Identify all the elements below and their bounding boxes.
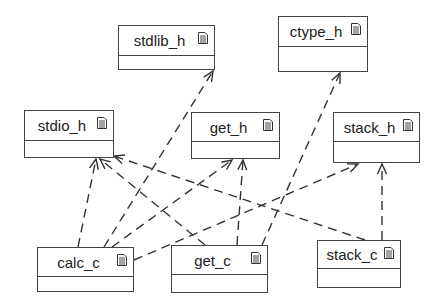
node-calc-c[interactable]: calc_c — [37, 247, 134, 292]
document-icon — [117, 254, 127, 266]
node-label: get_c — [194, 252, 245, 269]
document-icon — [251, 252, 261, 264]
node-header: get_c — [172, 246, 267, 275]
node-body — [119, 56, 214, 69]
node-stdlib-h[interactable]: stdlib_h — [118, 25, 215, 70]
dependency-arrow-get_c-to-get_h — [237, 160, 247, 245]
node-body — [38, 277, 133, 291]
node-label: stack_h — [344, 119, 410, 136]
node-body — [334, 142, 419, 162]
node-header: stdio_h — [25, 111, 113, 141]
document-icon — [263, 119, 273, 131]
node-label: stdio_h — [38, 117, 100, 134]
dependency-arrow-stack_c-to-stack_h — [378, 164, 387, 240]
node-stack-h[interactable]: stack_h — [333, 112, 420, 163]
node-body — [172, 275, 267, 292]
node-body — [192, 142, 279, 158]
node-ctype-h[interactable]: ctype_h — [278, 16, 368, 72]
document-icon — [351, 23, 361, 35]
document-icon — [403, 119, 413, 131]
node-header: stdlib_h — [119, 26, 214, 56]
node-get-h[interactable]: get_h — [191, 112, 280, 159]
node-label: stack_c — [327, 246, 392, 263]
node-header: get_h — [192, 113, 279, 142]
node-body — [279, 47, 367, 71]
document-icon — [97, 117, 107, 129]
node-label: calc_c — [57, 254, 114, 271]
dependency-arrow-calc_c-to-get_h — [112, 160, 232, 247]
node-label: stdlib_h — [134, 32, 200, 49]
node-header: stack_c — [318, 241, 400, 269]
dependency-arrow-get_c-to-stdio_h — [100, 159, 205, 245]
dependency-arrow-calc_c-to-stdlib_h — [104, 71, 213, 247]
node-body — [25, 141, 113, 157]
node-header: calc_c — [38, 248, 133, 277]
node-stack-c[interactable]: stack_c — [317, 240, 401, 288]
document-icon — [384, 247, 394, 259]
document-icon — [198, 32, 208, 44]
dependency-arrow-calc_c-to-stdio_h — [78, 159, 98, 247]
node-body — [318, 269, 400, 287]
node-stdio-h[interactable]: stdio_h — [24, 110, 114, 158]
node-label: ctype_h — [290, 23, 357, 40]
node-get-c[interactable]: get_c — [171, 245, 268, 293]
node-header: ctype_h — [279, 17, 367, 47]
dependency-diagram: stdlib_h ctype_h stdio_h get_h stack_h — [0, 0, 440, 308]
node-header: stack_h — [334, 113, 419, 142]
node-label: get_h — [210, 119, 262, 136]
